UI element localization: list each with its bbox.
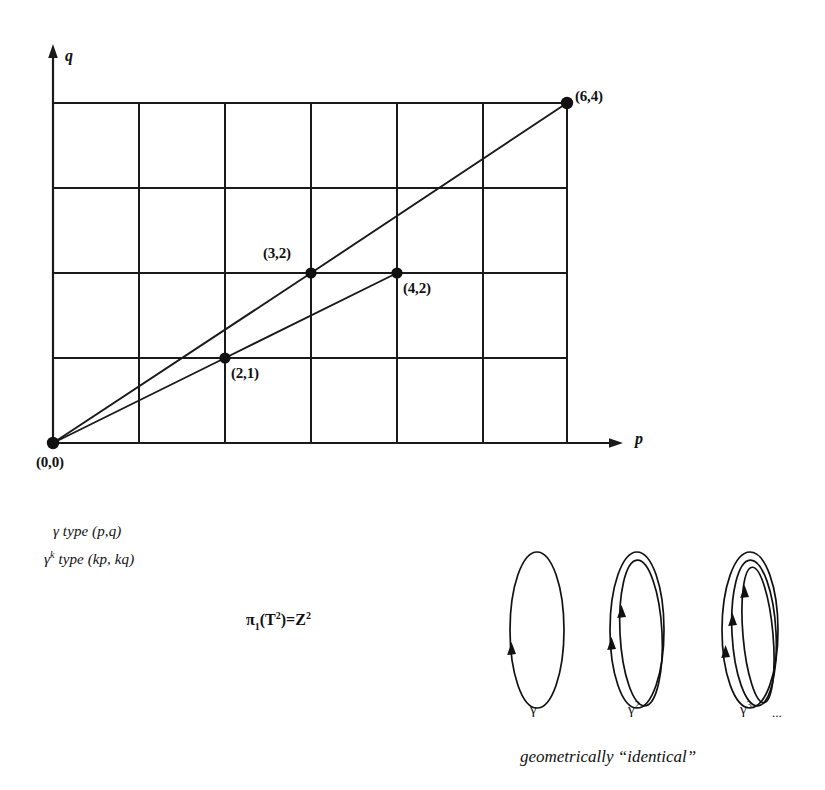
x-axis-label: p	[635, 431, 643, 447]
note-gamma-k-type: γk type (kp, kq)	[44, 550, 134, 567]
figure-caption: geometrically “identical”	[520, 748, 696, 765]
point-marker-origin	[47, 437, 59, 449]
formula-pi: π	[246, 611, 255, 628]
figure-canvas: q p (0,0) (2,1) (3,2) (4,2) (6,4) γ type…	[0, 0, 825, 790]
loop-label-gamma-2: γ2	[628, 700, 640, 717]
grid-horizontal-lines	[53, 103, 567, 358]
point-label-3-2: (3,2)	[263, 246, 291, 261]
formula-equals-z: )=Z	[281, 611, 306, 628]
formula-torus-open: (T	[260, 611, 276, 628]
loop-label-gamma-3-exponent: 3	[747, 699, 752, 710]
loop-arrow-gamma-3-inner	[740, 585, 749, 598]
loop-shape-gamma-1	[510, 552, 564, 708]
y-axis	[48, 44, 58, 443]
loop-label-gamma-2-exponent: 2	[635, 699, 640, 710]
point-marker-2-1	[219, 352, 230, 363]
loop-arrow-gamma-2-outer	[607, 637, 616, 650]
point-marker-3-2	[305, 267, 316, 278]
loop-label-gamma-1: γ	[530, 700, 537, 717]
loop-shape-gamma-3	[722, 552, 780, 708]
note-gamma-k-rest: type (kp, kq)	[55, 551, 135, 567]
loop-label-ellipsis: ...	[772, 706, 782, 719]
point-marker-6-4	[561, 97, 573, 109]
lattice-plot	[0, 0, 825, 500]
loop-arrow-gamma-3-middle	[728, 613, 737, 626]
loop-label-gamma-3-base: γ	[740, 701, 747, 717]
loop-arrow-gamma-1	[507, 642, 516, 655]
point-label-origin: (0,0)	[36, 455, 64, 470]
formula-z-exponent: 2	[306, 610, 311, 621]
point-label-4-2: (4,2)	[403, 281, 431, 296]
note-gamma-type: γ type (p,q)	[53, 524, 121, 539]
loop-label-gamma-2-base: γ	[628, 701, 635, 717]
point-label-2-1: (2,1)	[231, 366, 259, 381]
point-marker-4-2	[391, 267, 402, 278]
point-label-6-4: (6,4)	[575, 89, 603, 104]
loop-label-gamma-1-base: γ	[530, 701, 537, 717]
loop-arrow-gamma-2-inner	[617, 605, 626, 618]
loop-shape-gamma-2	[610, 552, 666, 708]
fundamental-group-formula: π1(T2)=Z2	[246, 611, 311, 632]
y-axis-label: q	[65, 48, 73, 64]
loop-label-gamma-3: γ3	[740, 700, 752, 717]
